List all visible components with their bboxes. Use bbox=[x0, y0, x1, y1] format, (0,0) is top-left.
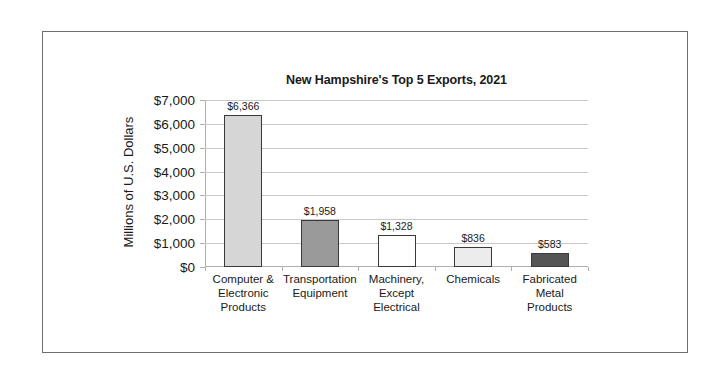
x-category-label: FabricatedMetalProducts bbox=[510, 272, 590, 314]
y-tick-label: $5,000 bbox=[154, 140, 195, 155]
bar bbox=[378, 235, 416, 267]
y-tick bbox=[200, 148, 205, 149]
y-tick bbox=[200, 243, 205, 244]
y-tick-label: $1,000 bbox=[154, 236, 195, 251]
y-tick-label: $4,000 bbox=[154, 164, 195, 179]
bar bbox=[301, 220, 339, 267]
data-label: $583 bbox=[512, 238, 588, 250]
y-tick bbox=[200, 100, 205, 101]
x-category-label: TransportationEquipment bbox=[280, 272, 360, 300]
y-tick-label: $0 bbox=[180, 260, 195, 275]
x-category-label: Computer &ElectronicProducts bbox=[203, 272, 283, 314]
y-tick-label: $6,000 bbox=[154, 116, 195, 131]
y-tick bbox=[200, 195, 205, 196]
x-category-label: Machinery,ExceptElectrical bbox=[357, 272, 437, 314]
y-tick-label: $2,000 bbox=[154, 212, 195, 227]
x-tick bbox=[511, 267, 512, 271]
gridline bbox=[205, 124, 588, 125]
x-tick bbox=[435, 267, 436, 271]
x-category-label: Chemicals bbox=[433, 272, 513, 286]
data-label: $1,328 bbox=[359, 220, 435, 232]
x-tick bbox=[358, 267, 359, 271]
gridline bbox=[205, 148, 588, 149]
y-axis-label: Millions of U.S. Dollars bbox=[121, 117, 136, 248]
bar bbox=[531, 253, 569, 267]
y-axis-line bbox=[205, 100, 206, 267]
bar bbox=[224, 115, 262, 267]
y-tick bbox=[200, 219, 205, 220]
plot-area: $0$1,000$2,000$3,000$4,000$5,000$6,000$7… bbox=[205, 100, 588, 267]
bar bbox=[454, 247, 492, 267]
data-label: $6,366 bbox=[205, 100, 281, 112]
y-tick bbox=[200, 124, 205, 125]
y-tick-label: $3,000 bbox=[154, 188, 195, 203]
data-label: $1,958 bbox=[282, 205, 358, 217]
data-label: $836 bbox=[435, 232, 511, 244]
x-tick bbox=[588, 267, 589, 271]
y-tick bbox=[200, 172, 205, 173]
gridline bbox=[205, 172, 588, 173]
chart-title: New Hampshire's Top 5 Exports, 2021 bbox=[205, 73, 588, 87]
x-tick bbox=[282, 267, 283, 271]
gridline bbox=[205, 195, 588, 196]
x-tick bbox=[205, 267, 206, 271]
y-tick-label: $7,000 bbox=[154, 93, 195, 108]
